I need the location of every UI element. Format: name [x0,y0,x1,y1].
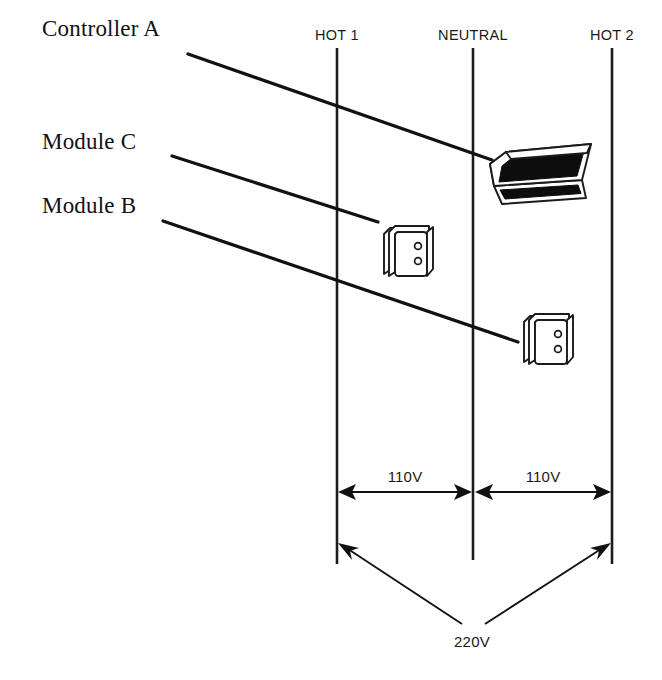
device-module-b [524,314,573,364]
bus-lines-group [337,48,612,564]
arrow-head-upper-right [590,543,611,560]
leader-line-module-b [163,221,518,342]
measurement-voltage-hot1-hot2: 220V [338,543,611,650]
voltage-value-110v-left: 110V [388,468,423,485]
dimension-line-right [485,549,601,624]
outlet-hole-upper [555,331,562,338]
voltage-value-220v: 220V [454,633,490,650]
outlet-hole-lower [415,258,422,265]
voltage-value-110v-right: 110V [526,468,561,485]
outlet-hole-upper [415,243,422,250]
callout-label-controller-a: Controller A [42,16,160,41]
callout-label-module-c: Module C [42,129,136,154]
outlet-hole-lower [555,346,562,353]
bus-label-hot1: HOT 1 [315,27,359,43]
leader-line-controller-a [188,54,492,160]
dimension-line-left [348,549,462,624]
leader-lines-group [163,54,518,342]
bus-label-neutral: NEUTRAL [438,27,508,43]
device-controller-a [490,144,591,204]
wiring-diagram: HOT 1 NEUTRAL HOT 2 Controller A Module … [0,0,662,680]
measurement-voltage-hot1-neutral: 110V [338,468,472,500]
measurement-voltage-neutral-hot2: 110V [475,468,611,500]
leader-line-module-c [172,156,378,222]
bus-labels-group: HOT 1 NEUTRAL HOT 2 [315,27,634,43]
arrow-head-upper-left [338,543,359,560]
diagram-canvas: HOT 1 NEUTRAL HOT 2 Controller A Module … [0,0,662,680]
callout-label-module-b: Module B [42,193,136,218]
device-module-c [384,226,433,276]
callout-labels-group: Controller A Module C Module B [42,16,160,218]
bus-label-hot2: HOT 2 [590,27,634,43]
